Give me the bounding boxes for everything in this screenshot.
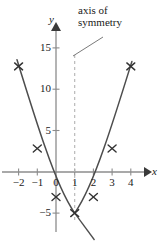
x-tick-label: 0 — [46, 176, 66, 188]
x-tick-label: 3 — [102, 176, 122, 188]
data-point-marker — [89, 194, 97, 201]
data-point-marker — [71, 210, 79, 217]
x-tick-label: 4 — [121, 176, 141, 188]
x-axis-label: x — [152, 165, 157, 177]
figure-container: axis of symmetry y x −2−10123451015−5 — [0, 0, 162, 242]
y-tick-label: 10 — [29, 82, 51, 94]
x-tick-label: −2 — [9, 176, 29, 188]
data-point-marker — [108, 145, 116, 152]
x-tick-label: 2 — [83, 176, 103, 188]
annotation-leader-line — [73, 37, 103, 56]
x-axis-arrow-icon — [144, 167, 152, 177]
data-point-marker — [33, 145, 41, 152]
y-tick-label: 5 — [29, 124, 51, 136]
secant-line — [75, 213, 95, 240]
parabola-plot — [0, 0, 162, 242]
x-tick-label: 1 — [65, 176, 85, 188]
y-axis-label: y — [49, 13, 54, 25]
annotation-line-1: axis of — [78, 4, 108, 16]
axis-of-symmetry-annotation: axis of symmetry — [78, 4, 122, 28]
annotation-line-2: symmetry — [78, 16, 122, 28]
y-tick-label: 15 — [29, 41, 51, 53]
x-tick-label: −1 — [27, 176, 47, 188]
y-tick-label: −5 — [29, 206, 51, 218]
